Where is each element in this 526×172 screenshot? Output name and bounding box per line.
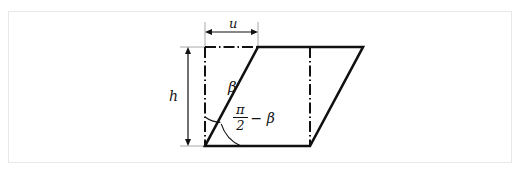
width-dimension-label: u (229, 17, 237, 30)
h-arrowhead-bottom (185, 139, 191, 146)
fraction-denominator: 2 (233, 118, 247, 132)
complementary-angle-label: π 2 − β (233, 103, 275, 132)
height-dimension-label: h (169, 89, 178, 103)
u-arrowhead-right (251, 29, 258, 35)
figure-frame (9, 12, 512, 163)
u-arrowhead-left (205, 29, 212, 35)
beta-angle-label: β (228, 80, 237, 95)
parallelogram-outline (205, 47, 363, 146)
minus-beta-term: − β (250, 110, 275, 126)
fraction-numerator: π (233, 103, 248, 117)
h-arrowhead-top (185, 47, 191, 54)
pi-over-two-fraction: π 2 (233, 103, 248, 132)
parallelogram-figure (0, 0, 526, 172)
diagram-canvas: u h β π 2 − β (0, 0, 526, 172)
